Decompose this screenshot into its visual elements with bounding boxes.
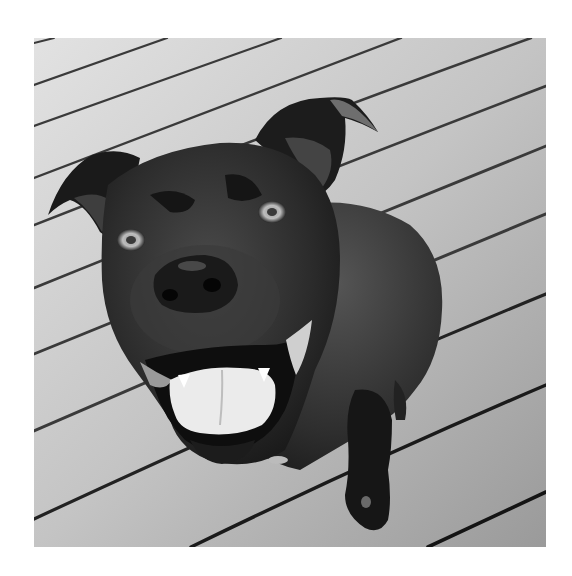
dog-chest-highlight bbox=[268, 456, 288, 464]
dog-paw-highlight bbox=[361, 496, 371, 508]
dog-left-eye-pupil bbox=[126, 236, 136, 244]
dog-front-leg bbox=[345, 389, 392, 530]
dog-photo bbox=[34, 38, 546, 547]
dog-photo-canvas bbox=[34, 38, 546, 547]
dog-nose-shine bbox=[178, 261, 206, 271]
dog-right-eye-pupil bbox=[267, 208, 277, 216]
dog-nostril-left bbox=[162, 289, 178, 301]
dog-nostril-right bbox=[203, 278, 221, 292]
